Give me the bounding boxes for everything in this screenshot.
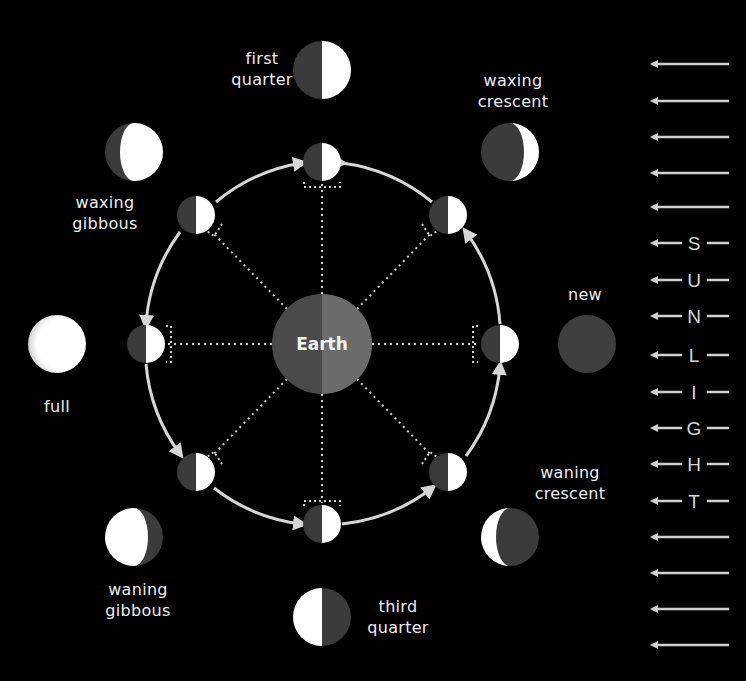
label-line: third bbox=[358, 596, 438, 617]
label-full: full bbox=[27, 396, 87, 417]
orbit-moon-third-quarter bbox=[303, 505, 341, 543]
moon-full bbox=[28, 315, 86, 373]
orbit-moon-waxing-crescent bbox=[429, 196, 467, 234]
orbit-moon-waning-crescent bbox=[429, 453, 467, 491]
label-line: quarter bbox=[222, 69, 302, 90]
earth-label: Earth bbox=[296, 334, 348, 354]
sunlight-arrow bbox=[650, 60, 729, 68]
sunlight-word: S U N L I G H T bbox=[687, 233, 702, 512]
label-line: first bbox=[222, 48, 302, 69]
sunlight-arrow bbox=[650, 133, 729, 141]
orbit-moon-first-quarter bbox=[303, 143, 341, 181]
label-waxing-crescent: waxing crescent bbox=[468, 70, 558, 112]
label-line: crescent bbox=[525, 483, 615, 504]
sunlight-letter: I bbox=[691, 382, 696, 403]
label-line: waxing bbox=[62, 192, 148, 213]
orbit-moon-waning-gibbous bbox=[177, 453, 215, 491]
moon-waxing-crescent bbox=[481, 123, 539, 181]
earth: Earth bbox=[272, 294, 372, 394]
sunlight-letter: T bbox=[688, 491, 700, 512]
orbit-moon-waxing-gibbous bbox=[177, 196, 215, 234]
orbit-moon-full bbox=[127, 325, 165, 363]
label-line: waning bbox=[95, 579, 181, 600]
label-waxing-gibbous: waxing gibbous bbox=[62, 192, 148, 234]
sunlight-letter: U bbox=[687, 270, 701, 291]
sunlight-letter: H bbox=[687, 454, 701, 475]
label-line: quarter bbox=[358, 617, 438, 638]
moon-new bbox=[558, 315, 616, 373]
sunlight-arrow bbox=[650, 605, 729, 613]
sunlight-arrow bbox=[650, 569, 729, 577]
sunlight-arrow bbox=[650, 533, 729, 541]
sunlight-letter: N bbox=[687, 306, 701, 327]
label-line: gibbous bbox=[62, 213, 148, 234]
moon-third-quarter bbox=[293, 588, 351, 646]
moon-waning-gibbous bbox=[105, 508, 163, 566]
label-line: gibbous bbox=[95, 600, 181, 621]
sunlight-arrow bbox=[650, 641, 729, 649]
moon-waxing-gibbous bbox=[105, 123, 163, 181]
label-line: waxing bbox=[468, 70, 558, 91]
label-line: full bbox=[27, 396, 87, 417]
sunlight-letter: S bbox=[688, 233, 701, 254]
label-waning-gibbous: waning gibbous bbox=[95, 579, 181, 621]
label-line: new bbox=[555, 284, 615, 305]
sunlight-arrow bbox=[650, 203, 729, 211]
sunlight-letter: G bbox=[687, 418, 702, 439]
sunlight-arrow bbox=[650, 97, 729, 105]
label-line: crescent bbox=[468, 91, 558, 112]
moon-waning-crescent bbox=[481, 508, 539, 566]
label-first-quarter: first quarter bbox=[222, 48, 302, 90]
label-third-quarter: third quarter bbox=[358, 596, 438, 638]
label-new: new bbox=[555, 284, 615, 305]
label-line: waning bbox=[525, 462, 615, 483]
sunlight-letter: L bbox=[689, 345, 700, 366]
label-waning-crescent: waning crescent bbox=[525, 462, 615, 504]
orbit-moon-new bbox=[481, 325, 519, 363]
sunlight-letter-arrow bbox=[650, 388, 729, 396]
sunlight-arrow bbox=[650, 169, 729, 177]
